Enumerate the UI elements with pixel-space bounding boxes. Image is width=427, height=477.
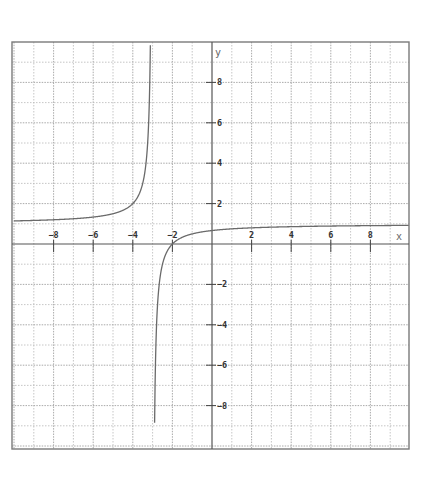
x-tick-label: −4 — [128, 230, 138, 240]
y-tick-label: −2 — [217, 279, 227, 289]
y-tick-label: −4 — [217, 320, 227, 330]
x-tick-label: −6 — [88, 230, 98, 240]
y-tick-label: −8 — [217, 401, 227, 411]
grid-lines — [12, 42, 409, 449]
y-tick-label: −6 — [217, 360, 227, 370]
y-tick-label: 8 — [217, 77, 222, 87]
x-tick-label: 4 — [289, 230, 294, 240]
x-tick-label: −8 — [48, 230, 58, 240]
y-tick-label: 6 — [217, 118, 222, 128]
function-plot: −8−6−4−22468−8−6−4−22468 x y — [0, 0, 427, 477]
y-axis-label: y — [215, 47, 221, 58]
x-tick-label: −2 — [167, 230, 177, 240]
x-tick-label: 8 — [368, 230, 373, 240]
x-tick-label: 2 — [249, 230, 254, 240]
plot-frame — [12, 42, 409, 449]
y-tick-label: 2 — [217, 199, 222, 209]
x-tick-label: 6 — [328, 230, 333, 240]
curve-left-branch — [14, 45, 150, 221]
x-axis-label: x — [396, 231, 402, 242]
y-tick-label: 4 — [217, 158, 222, 168]
